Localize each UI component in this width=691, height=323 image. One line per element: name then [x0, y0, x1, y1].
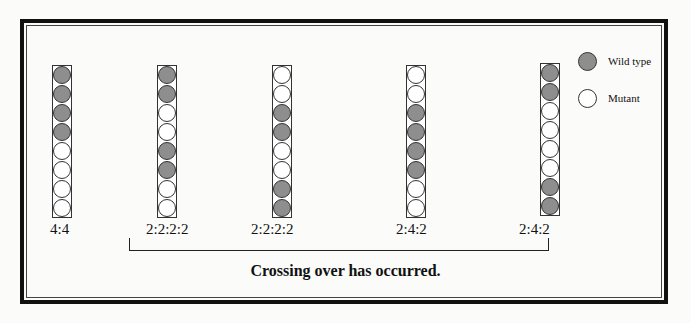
- wild-type-legend-icon: [578, 52, 597, 71]
- mutant-spore-icon: [53, 142, 71, 160]
- mutant-spore-icon: [273, 161, 291, 179]
- ascus-5: [540, 63, 560, 216]
- figure-frame-inner: [26, 25, 662, 298]
- legend-label-mutant: Mutant: [608, 92, 640, 104]
- ascus-ratio-1: 4:4: [50, 221, 69, 238]
- wild-type-spore-icon: [273, 104, 291, 122]
- mutant-spore-icon: [53, 199, 71, 217]
- legend-label-wild-type: Wild type: [608, 55, 651, 67]
- mutant-spore-icon: [53, 161, 71, 179]
- mutant-spore-icon: [407, 66, 425, 84]
- ascus-ratio-5: 2:4:2: [519, 221, 550, 238]
- wild-type-spore-icon: [541, 197, 559, 215]
- caption: Crossing over has occurred.: [0, 262, 691, 280]
- mutant-spore-icon: [541, 140, 559, 158]
- mutant-spore-icon: [541, 159, 559, 177]
- ascus-ratio-4: 2:4:2: [396, 221, 427, 238]
- mutant-spore-icon: [541, 121, 559, 139]
- mutant-spore-icon: [158, 123, 176, 141]
- wild-type-spore-icon: [53, 85, 71, 103]
- ascus-3: [272, 65, 292, 218]
- ascus-1: [52, 65, 72, 218]
- ascus-ratio-3: 2:2:2:2: [251, 221, 294, 238]
- wild-type-spore-icon: [407, 142, 425, 160]
- mutant-spore-icon: [407, 199, 425, 217]
- wild-type-spore-icon: [273, 180, 291, 198]
- wild-type-spore-icon: [53, 104, 71, 122]
- ascus-2: [157, 65, 177, 218]
- wild-type-spore-icon: [407, 123, 425, 141]
- wild-type-spore-icon: [53, 123, 71, 141]
- wild-type-spore-icon: [53, 66, 71, 84]
- wild-type-spore-icon: [158, 142, 176, 160]
- mutant-spore-icon: [273, 142, 291, 160]
- wild-type-spore-icon: [158, 85, 176, 103]
- wild-type-spore-icon: [407, 161, 425, 179]
- wild-type-spore-icon: [273, 199, 291, 217]
- mutant-spore-icon: [407, 85, 425, 103]
- crossover-bracket: [129, 238, 549, 251]
- wild-type-spore-icon: [407, 104, 425, 122]
- mutant-spore-icon: [407, 180, 425, 198]
- mutant-spore-icon: [158, 180, 176, 198]
- wild-type-spore-icon: [541, 64, 559, 82]
- mutant-spore-icon: [53, 180, 71, 198]
- wild-type-spore-icon: [158, 161, 176, 179]
- wild-type-spore-icon: [541, 178, 559, 196]
- mutant-spore-icon: [273, 85, 291, 103]
- ascus-ratio-2: 2:2:2:2: [146, 221, 189, 238]
- wild-type-spore-icon: [273, 123, 291, 141]
- mutant-spore-icon: [158, 104, 176, 122]
- mutant-legend-icon: [578, 89, 597, 108]
- wild-type-spore-icon: [158, 66, 176, 84]
- mutant-spore-icon: [541, 102, 559, 120]
- mutant-spore-icon: [158, 199, 176, 217]
- wild-type-spore-icon: [541, 83, 559, 101]
- mutant-spore-icon: [273, 66, 291, 84]
- ascus-4: [406, 65, 426, 218]
